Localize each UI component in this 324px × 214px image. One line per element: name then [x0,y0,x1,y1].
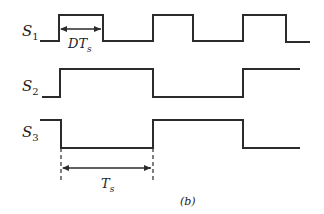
signal-s1-label: S1 [22,22,39,42]
signal-s2: S2 [22,69,300,97]
timing-diagram: S1 DTs S2 S3 Ts (b) [0,0,324,214]
period-label: Ts [101,176,115,194]
duty-label: DTs [67,36,92,54]
figure-caption: (b) [180,195,196,208]
duty-annotation: DTs [61,29,101,54]
signal-s3: S3 [22,120,300,148]
s3-waveform [40,120,300,148]
signal-s3-label: S3 [22,123,39,143]
period-annotation: Ts [61,148,153,194]
s2-waveform [42,69,300,97]
signal-s2-label: S2 [22,77,39,97]
